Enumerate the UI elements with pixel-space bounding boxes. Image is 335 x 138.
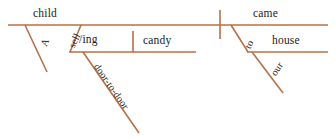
word-verb-came: came bbox=[253, 8, 278, 20]
word-gerund-object-candy: candy bbox=[143, 35, 171, 47]
sentence-diagram: child A sell /ing candy door-to-door cam… bbox=[0, 0, 335, 138]
word-subject-child: child bbox=[33, 8, 57, 20]
word-prep-object-house: house bbox=[272, 35, 300, 47]
article-a-slant-line bbox=[25, 25, 47, 72]
diagram-lines bbox=[0, 0, 335, 138]
word-gerund-suffix-ing: /ing bbox=[79, 34, 98, 46]
